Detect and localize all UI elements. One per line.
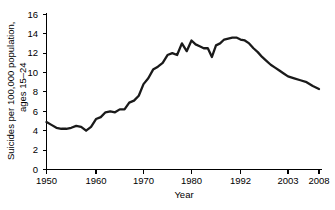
x-tick-label-1992: 1992 — [230, 175, 251, 186]
line-chart-canvas: Suicides per 100,000 population, ages 15… — [0, 0, 335, 210]
chart-figure: Suicides per 100,000 population, ages 15… — [0, 0, 335, 210]
y-tick-label-0: 0 — [33, 164, 38, 175]
x-tick-label-2008: 2008 — [308, 175, 329, 186]
y-tick-label-4: 4 — [33, 125, 38, 136]
y-tick-label-16: 16 — [27, 9, 38, 20]
x-tick-label-2003: 2003 — [277, 175, 298, 186]
x-tick-label-1970: 1970 — [133, 175, 154, 186]
y-axis-ticks: 0 2 4 6 8 10 12 14 16 — [27, 9, 46, 175]
y-axis-title-line1: Suicides per 100,000 population, — [5, 22, 16, 160]
y-tick-label-12: 12 — [27, 47, 38, 58]
y-tick-label-6: 6 — [33, 106, 38, 117]
x-axis-ticks: 1950 1960 1970 1980 1992 2003 2008 — [36, 170, 330, 187]
x-tick-label-1980: 1980 — [181, 175, 202, 186]
x-tick-label-1960: 1960 — [85, 175, 106, 186]
y-tick-label-8: 8 — [33, 86, 38, 97]
suicide-rate-line — [47, 38, 320, 131]
y-tick-label-2: 2 — [33, 144, 38, 155]
x-axis-title: Year — [174, 189, 193, 200]
x-tick-label-1950: 1950 — [36, 175, 57, 186]
y-tick-label-10: 10 — [27, 67, 38, 78]
y-axis-title-line2: ages 15–24 — [17, 62, 28, 112]
y-axis-title: Suicides per 100,000 population, ages 15… — [5, 22, 28, 160]
y-tick-label-14: 14 — [27, 28, 38, 39]
